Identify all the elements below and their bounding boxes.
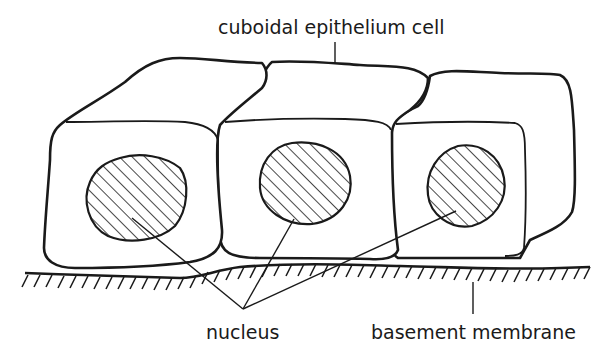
nucleus-middle (260, 142, 351, 224)
nucleus-label: nucleus (206, 321, 279, 343)
nucleus-left (87, 155, 187, 240)
cuboidal-epithelium-diagram: cuboidal epithelium cell (0, 0, 610, 360)
nucleus-right (428, 145, 505, 226)
membrane-label: basement membrane (371, 321, 576, 343)
cell-label: cuboidal epithelium cell (218, 16, 445, 38)
